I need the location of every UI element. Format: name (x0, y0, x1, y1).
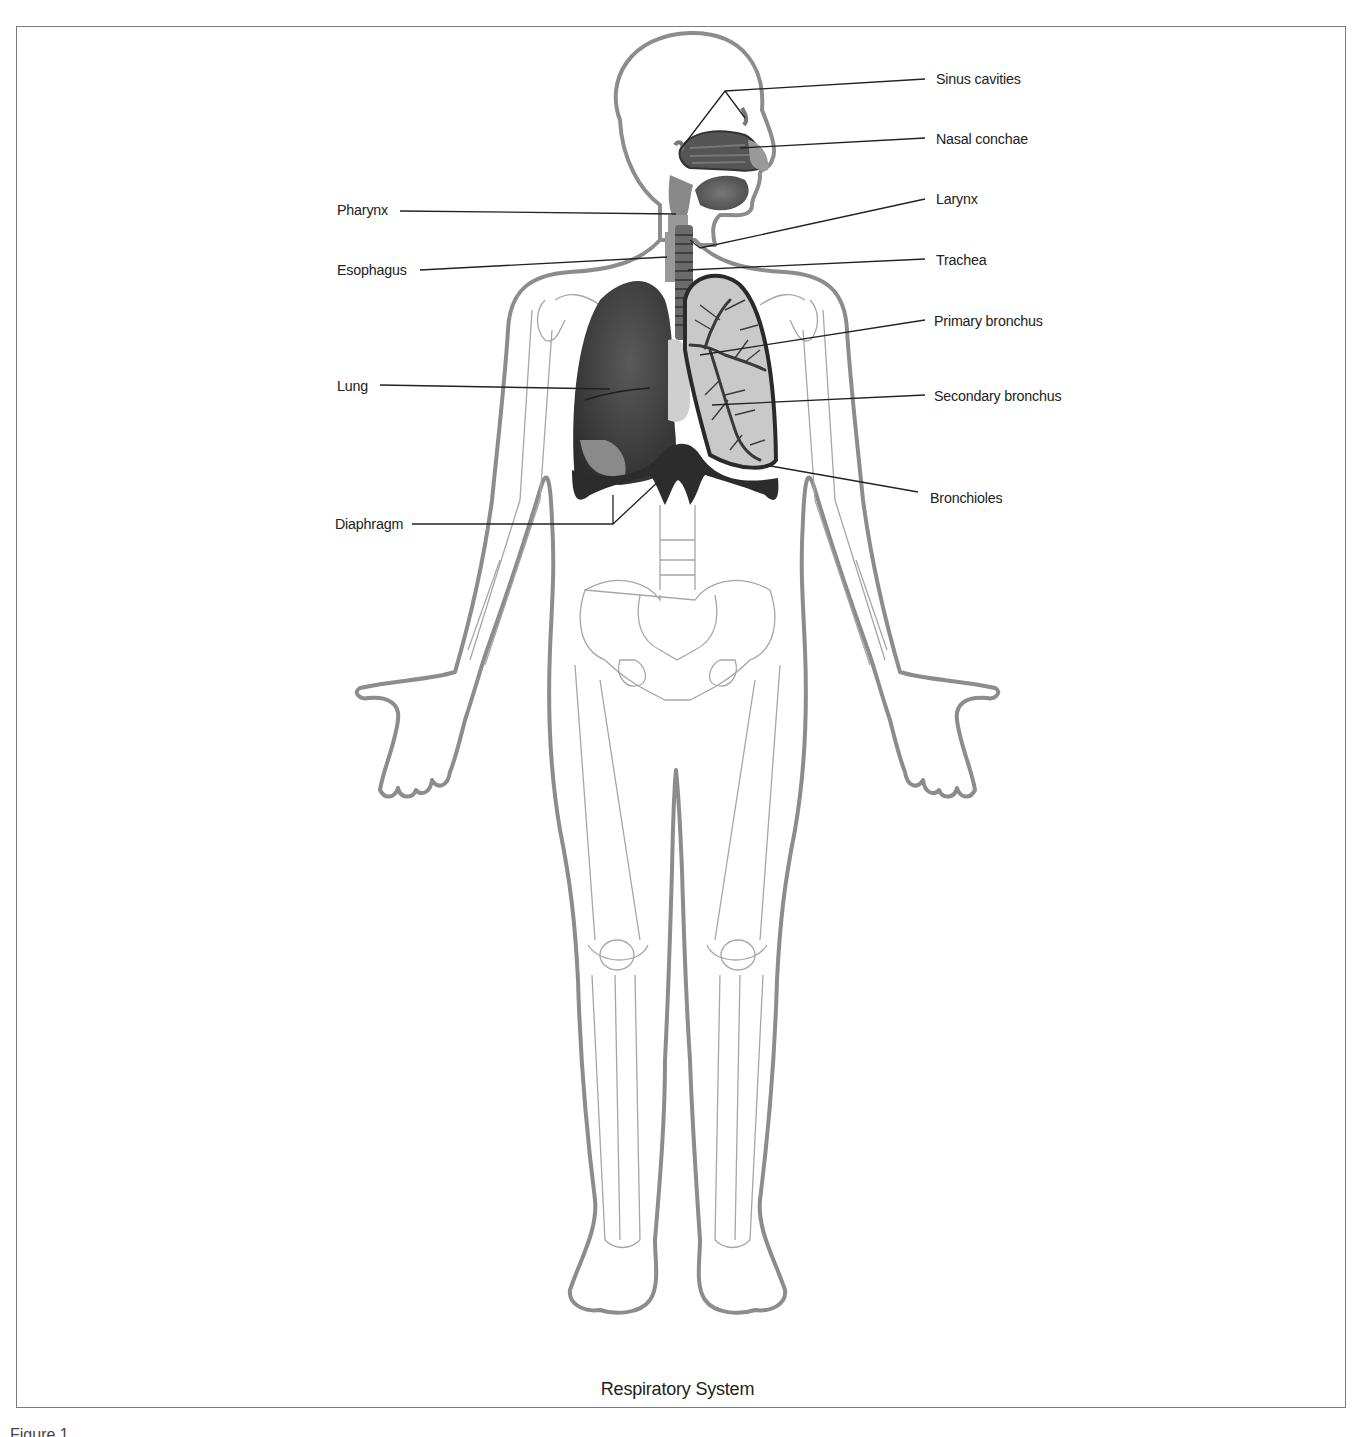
label-esophagus: Esophagus (337, 261, 407, 279)
figure-title: Respiratory System (0, 1379, 1355, 1400)
respiratory-system-illustration (0, 0, 1355, 1437)
label-secondary-bronchus: Secondary bronchus (934, 387, 1061, 405)
label-diaphragm: Diaphragm (335, 515, 403, 533)
label-bronchioles: Bronchioles (930, 489, 1002, 507)
figure-caption-fragment: Figure 1 (10, 1426, 69, 1437)
label-nasal-conchae: Nasal conchae (936, 130, 1028, 148)
label-pharynx: Pharynx (337, 201, 388, 219)
label-primary-bronchus: Primary bronchus (934, 312, 1043, 330)
label-sinus-cavities: Sinus cavities (936, 70, 1021, 88)
label-lung: Lung (337, 377, 368, 395)
label-trachea: Trachea (936, 251, 986, 269)
label-larynx: Larynx (936, 190, 978, 208)
